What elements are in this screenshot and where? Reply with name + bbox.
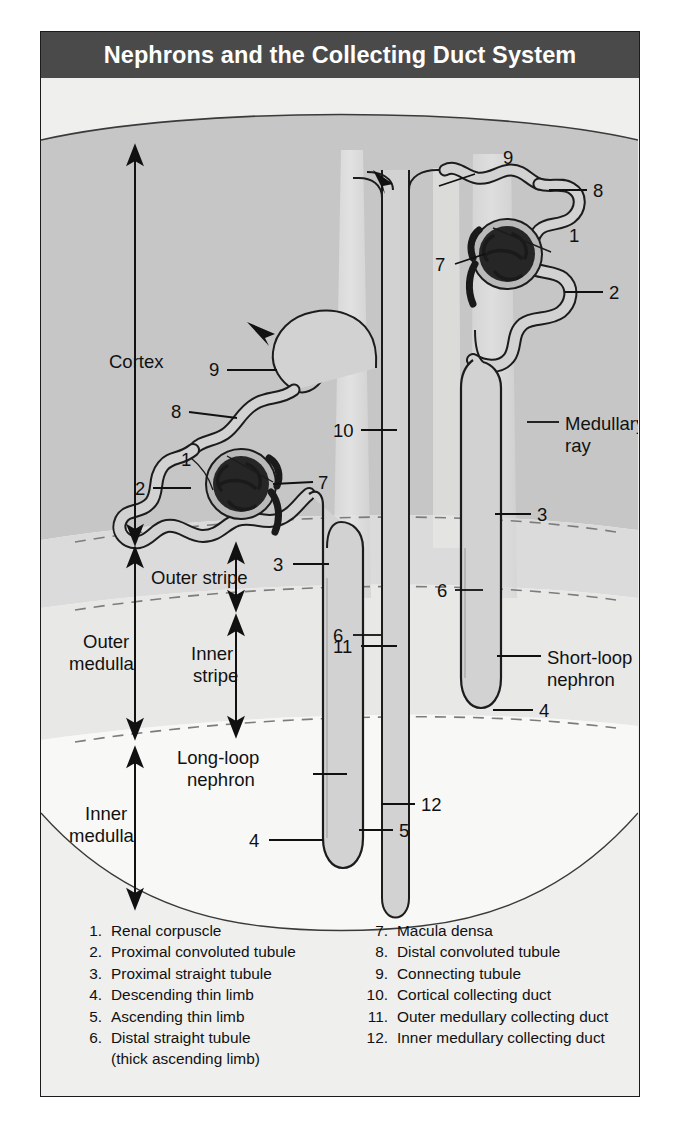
collecting-duct-trunk — [382, 170, 409, 918]
number-right-6: 6 — [437, 580, 447, 601]
legend-sublabel: (thick ascending limb) — [111, 1048, 260, 1069]
label-inner-medulla-l1: Inner — [85, 803, 127, 824]
number-left-4: 4 — [249, 830, 259, 851]
number-left-7: 7 — [318, 472, 328, 493]
number-right-7: 7 — [435, 254, 445, 275]
legend-number: 8. — [363, 941, 388, 962]
legend-number: 2. — [77, 941, 102, 962]
kidney-diagram-canvas: Cortex Outer medulla Inner medulla Outer… — [41, 78, 638, 949]
label-medullary-ray-l1: Medullary — [565, 413, 638, 434]
legend-label: Ascending thin limb — [111, 1006, 244, 1027]
legend-item: 6. Distal straight tubule — [77, 1027, 296, 1048]
legend-number: 4. — [77, 984, 102, 1005]
number-duct-10: 10 — [333, 420, 354, 441]
legend-column-right: 7. Macula densa 8. Distal convoluted tub… — [363, 920, 608, 1048]
diagram-frame: Nephrons and the Collecting Duct System — [40, 31, 640, 1097]
legend-number: 9. — [363, 963, 388, 984]
number-duct-11: 11 — [333, 636, 352, 657]
legend-number: 7. — [363, 920, 388, 941]
legend-column-left: 1. Renal corpuscle 2. Proximal convolute… — [77, 920, 296, 1070]
label-short-loop-l1: Short-loop — [547, 647, 632, 668]
label-medullary-ray-l2: ray — [565, 435, 591, 456]
number-left-5: 5 — [399, 820, 409, 841]
label-outer-stripe: Outer stripe — [151, 567, 248, 588]
legend-item-sub: (thick ascending limb) — [77, 1048, 296, 1069]
legend-item: 10. Cortical collecting duct — [363, 984, 608, 1005]
legend-item: 2. Proximal convoluted tubule — [77, 941, 296, 962]
legend-number: 5. — [77, 1006, 102, 1027]
legend-number: 1. — [77, 920, 102, 941]
label-inner-stripe-l2: stripe — [193, 665, 238, 686]
label-outer-medulla-l2: medulla — [69, 653, 134, 674]
number-right-9: 9 — [503, 147, 513, 168]
label-cortex: Cortex — [109, 351, 164, 372]
legend-item: 4. Descending thin limb — [77, 984, 296, 1005]
medullary-ray-center — [433, 168, 461, 548]
legend-number: 11. — [363, 1006, 388, 1027]
label-long-loop-l2: nephron — [187, 769, 255, 790]
legend-label: Distal straight tubule — [111, 1027, 250, 1048]
number-left-2: 2 — [135, 478, 145, 499]
legend-label: Outer medullary collecting duct — [397, 1006, 608, 1027]
number-left-8: 8 — [171, 401, 181, 422]
legend-label: Proximal straight tubule — [111, 963, 272, 984]
number-right-2: 2 — [609, 282, 619, 303]
legend-number: 12. — [363, 1027, 388, 1048]
legend-label: Descending thin limb — [111, 984, 254, 1005]
number-left-9: 9 — [209, 359, 219, 380]
legend-number: 10. — [363, 984, 388, 1005]
legend-item: 12. Inner medullary collecting duct — [363, 1027, 608, 1048]
label-long-loop-l1: Long-loop — [177, 747, 259, 768]
legend-item: 1. Renal corpuscle — [77, 920, 296, 941]
number-left-3: 3 — [273, 554, 283, 575]
legend: 1. Renal corpuscle 2. Proximal convolute… — [41, 920, 638, 1095]
label-inner-medulla-l2: medulla — [69, 825, 134, 846]
diagram-page: Nephrons and the Collecting Duct System — [0, 0, 677, 1128]
legend-label: Cortical collecting duct — [397, 984, 551, 1005]
legend-item: 11. Outer medullary collecting duct — [363, 1006, 608, 1027]
page-title: Nephrons and the Collecting Duct System — [104, 42, 577, 69]
legend-item: 9. Connecting tubule — [363, 963, 608, 984]
legend-number: 6. — [77, 1027, 102, 1048]
legend-number: 3. — [77, 963, 102, 984]
title-bar: Nephrons and the Collecting Duct System — [41, 32, 639, 78]
label-outer-medulla-l1: Outer — [83, 631, 129, 652]
legend-label: Distal convoluted tubule — [397, 941, 560, 962]
legend-label: Inner medullary collecting duct — [397, 1027, 605, 1048]
loop-of-henle-right — [461, 360, 501, 708]
label-inner-stripe-l1: Inner — [191, 643, 233, 664]
number-right-3: 3 — [537, 504, 547, 525]
legend-label: Connecting tubule — [397, 963, 521, 984]
number-right-1: 1 — [569, 225, 579, 246]
number-right-8: 8 — [593, 180, 603, 201]
legend-item: 8. Distal convoluted tubule — [363, 941, 608, 962]
legend-label: Renal corpuscle — [111, 920, 221, 941]
legend-item: 5. Ascending thin limb — [77, 1006, 296, 1027]
number-duct-12: 12 — [421, 794, 442, 815]
legend-label: Proximal convoluted tubule — [111, 941, 296, 962]
kidney-svg: Cortex Outer medulla Inner medulla Outer… — [41, 78, 638, 949]
number-left-1: 1 — [181, 449, 191, 470]
legend-item: 7. Macula densa — [363, 920, 608, 941]
number-right-4: 4 — [539, 700, 549, 721]
legend-item: 3. Proximal straight tubule — [77, 963, 296, 984]
label-short-loop-l2: nephron — [547, 669, 615, 690]
legend-label: Macula densa — [397, 920, 493, 941]
